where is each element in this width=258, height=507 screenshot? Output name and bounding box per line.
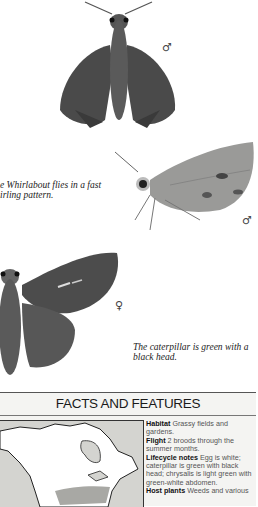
fact-host-plants: Host plants Weeds and various — [146, 487, 256, 495]
fact-habitat: Habitat Grassy fields and gardens. — [146, 420, 256, 437]
male-symbol: ♂ — [162, 41, 172, 54]
north-america-map-icon — [0, 421, 143, 507]
male-symbol-lateral: ♂ — [242, 214, 252, 227]
flight-caption: e Whirlabout flies in a fast irling patt… — [0, 180, 110, 200]
facts-and-features-panel: FACTS AND FEATURES Habitat Grassy fields… — [0, 392, 256, 506]
range-map — [0, 420, 144, 507]
butterfly-male-lateral-illustration — [110, 140, 256, 235]
female-symbol: ♀ — [115, 299, 123, 312]
fact-lifecycle: Lifecycle notes Egg is white; caterpilla… — [146, 454, 256, 488]
fact-flight: Flight 2 broods through the summer month… — [146, 437, 256, 454]
caterpillar-caption: The caterpillar is green with a black he… — [133, 342, 258, 362]
butterfly-male-dorsal-illustration — [55, 0, 185, 130]
facts-text: Habitat Grassy fields and gardens. Fligh… — [146, 420, 256, 496]
facts-title: FACTS AND FEATURES — [0, 393, 256, 416]
butterfly-female-dorsal-illustration — [0, 245, 125, 380]
